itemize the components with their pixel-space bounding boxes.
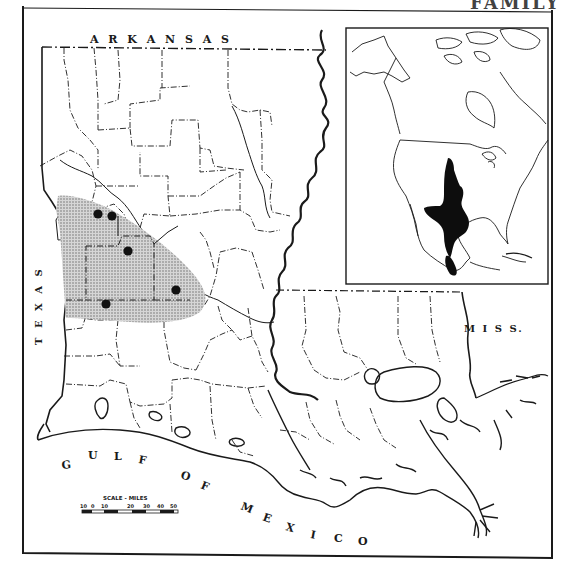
svg-text:F: F <box>199 479 211 494</box>
svg-text:C: C <box>334 532 343 545</box>
svg-text:F: F <box>137 453 147 467</box>
svg-text:0: 0 <box>91 503 95 509</box>
locality-point <box>101 299 110 308</box>
svg-text:X: X <box>284 520 296 535</box>
locality-point <box>171 285 180 294</box>
svg-text:30: 30 <box>143 503 150 509</box>
label-miss: M I S S. <box>464 323 524 334</box>
svg-text:10: 10 <box>101 503 108 509</box>
svg-text:20: 20 <box>127 503 134 509</box>
svg-text:E: E <box>261 511 273 526</box>
svg-text:10: 10 <box>80 503 87 509</box>
svg-text:M: M <box>239 500 255 517</box>
svg-text:L: L <box>114 450 122 463</box>
scale-bar: SCALE - MILES 10 0 10 20 30 40 50 <box>80 495 178 513</box>
svg-text:40: 40 <box>157 503 164 509</box>
svg-text:O: O <box>179 468 193 483</box>
svg-text:U: U <box>88 449 98 462</box>
locality-point <box>93 209 102 218</box>
inset-north-america-map <box>346 28 548 284</box>
locality-point <box>107 211 116 220</box>
label-arkansas: A R K A N S A S <box>89 33 232 46</box>
svg-text:I: I <box>309 528 316 542</box>
label-texas: T E X A S <box>33 266 44 345</box>
svg-text:50: 50 <box>170 503 177 509</box>
locality-point <box>123 246 132 255</box>
scale-title: SCALE - MILES <box>103 495 147 501</box>
svg-text:O: O <box>358 535 368 548</box>
svg-text:G: G <box>61 458 72 472</box>
map-figure: A R K A N S A S T E X A S M I S S. G U L… <box>0 0 576 576</box>
